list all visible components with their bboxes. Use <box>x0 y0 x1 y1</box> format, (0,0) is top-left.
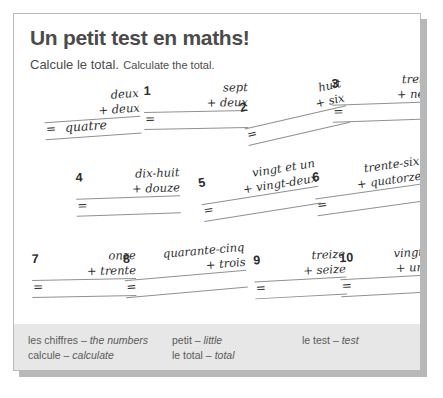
problem-9: 9 treize + seize = <box>253 246 347 299</box>
glossary-footer: les chiffres – the numbers calcule – cal… <box>14 324 420 370</box>
equals-sign: = <box>246 126 259 142</box>
answer-rule <box>249 122 351 146</box>
glossary-item-les-chiffres: les chiffres – the numbers <box>28 333 148 348</box>
problem-grid: deux + deux = quatre 1 sept + deux = <box>14 73 420 318</box>
page-title: Un petit test en maths! <box>30 26 420 49</box>
problem-term-2: + un <box>364 259 421 277</box>
problem-number: 8 <box>122 251 130 266</box>
problem-term-2: + deux <box>162 95 248 111</box>
problem-number: 7 <box>32 251 39 265</box>
problem-number: 10 <box>339 250 354 265</box>
answer-slot[interactable]: = <box>144 111 248 130</box>
problem-3: 3 treize + neuf = <box>331 71 421 123</box>
glossary-item-le-total: le total – total <box>172 348 234 363</box>
answer-rule <box>255 294 347 300</box>
instruction-french: Calcule le total. <box>30 57 119 72</box>
glossary-term-en: the numbers <box>90 334 148 346</box>
problem-10: 10 vingt + un = <box>339 245 421 298</box>
glossary-item-le-test: le test – test <box>302 333 359 348</box>
problem-example: deux + deux = quatre <box>42 85 141 140</box>
glossary-term-en: test <box>342 334 359 346</box>
glossary-term-en: calculate <box>72 349 113 361</box>
problem-term-2: + neuf <box>350 86 421 104</box>
answer-rule <box>333 118 421 123</box>
problem-terms: treize + neuf <box>331 71 421 104</box>
answer-rule <box>77 212 181 217</box>
answer-rule <box>126 287 248 299</box>
answer-slot[interactable]: = <box>32 279 136 298</box>
instruction-line: Calcule le total. Calculate the total. <box>30 55 420 73</box>
equals-sign: = <box>316 197 328 212</box>
problem-number: 1 <box>144 83 151 97</box>
glossary-item-petit: petit – little <box>172 333 222 348</box>
problem-term-1: sept <box>223 80 248 94</box>
problem-1: 1 sept + deux = <box>144 80 249 130</box>
answer-slot[interactable]: = <box>340 276 421 297</box>
glossary-term-fr: le test – <box>302 334 342 346</box>
problem-term-1: vingt <box>393 245 421 261</box>
glossary-term-fr: le total – <box>172 349 215 361</box>
problem-5: 5 vingt et un + vingt-deux = <box>197 156 321 222</box>
answer-rule <box>32 295 136 298</box>
equals-sign: = <box>333 105 344 119</box>
equals-sign: = <box>341 279 352 294</box>
answer-rule <box>341 292 421 297</box>
problem-number: 4 <box>75 170 82 184</box>
equals-sign: = <box>46 122 57 137</box>
worksheet-page: Un petit test en maths! Calcule le total… <box>13 13 421 371</box>
glossary-term-fr: les chiffres – <box>28 334 90 346</box>
worksheet-header: Un petit test en maths! Calcule le total… <box>14 14 420 73</box>
glossary-term-en: total <box>215 349 235 361</box>
equals-sign: = <box>33 280 43 294</box>
glossary-term-fr: petit – <box>172 334 204 346</box>
equals-sign: = <box>203 203 215 218</box>
problem-term-1: deux <box>110 85 139 101</box>
instruction-english: Calculate the total. <box>123 59 214 71</box>
problem-number: 9 <box>253 253 261 267</box>
problem-terms: onze + trente <box>32 248 136 279</box>
answer-rule <box>318 200 421 216</box>
problem-6: 6 trente-six + quatorze = <box>311 153 421 216</box>
problem-term-1: treize <box>402 71 421 86</box>
problem-terms: treize + seize <box>253 246 346 280</box>
answer-value: quatre <box>64 117 107 135</box>
problem-terms: sept + deux <box>144 80 248 111</box>
equals-sign: = <box>145 112 155 126</box>
problem-term-2: + douze <box>94 180 180 198</box>
glossary-term-en: little <box>204 334 223 346</box>
problem-4: 4 dix-huit + douze = <box>75 165 181 217</box>
answer-rule <box>46 133 142 141</box>
glossary-item-calcule: calcule – calculate <box>28 348 114 363</box>
problem-7: 7 onze + trente = <box>32 248 137 298</box>
glossary-term-fr: calcule – <box>28 349 72 361</box>
problem-term-1: dix-huit <box>135 165 180 181</box>
answer-slot[interactable]: = <box>332 102 421 123</box>
answer-rule <box>144 127 248 130</box>
equals-sign: = <box>255 281 266 296</box>
answer-slot[interactable]: = <box>76 196 181 217</box>
problem-number: 3 <box>331 76 338 90</box>
equals-sign: = <box>77 199 88 213</box>
problem-terms: dix-huit + douze <box>75 165 180 198</box>
problem-8: 8 quarante-cinq + trois = <box>122 239 248 298</box>
answer-rule <box>204 203 321 222</box>
glossary-list: les chiffres – the numbers calcule – cal… <box>14 324 420 333</box>
equals-sign: = <box>126 279 137 294</box>
